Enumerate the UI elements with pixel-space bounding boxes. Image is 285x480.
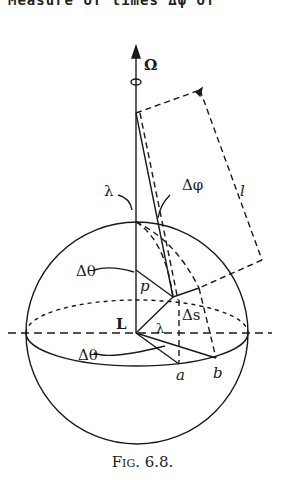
label-lambda-bottom: λ: [156, 322, 164, 335]
equator-back: [26, 300, 248, 333]
label-delta-phi: Δφ: [182, 178, 203, 193]
label-length: l: [240, 184, 245, 199]
label-lambda-top: λ: [104, 184, 114, 199]
sphere-diagram: [0, 0, 285, 480]
label-a: a: [176, 368, 185, 383]
pendulum-line: [136, 113, 173, 297]
radius-b: [136, 333, 216, 358]
label-delta-theta-top: Δθ: [76, 264, 96, 279]
rect-side: [200, 90, 262, 260]
equator-front: [26, 333, 248, 366]
figure-caption: Fig. 6.8.: [0, 453, 285, 471]
rect-top: [136, 90, 200, 113]
label-delta-s: Δs: [182, 308, 201, 323]
label-p: p: [140, 279, 150, 294]
label-b: b: [213, 366, 223, 381]
label-omega: Ω: [144, 58, 157, 73]
radius-line: [136, 297, 173, 333]
axis-arrow-icon: [132, 46, 140, 58]
label-L: L: [116, 317, 127, 332]
label-delta-theta-bottom: Δθ: [78, 348, 98, 363]
